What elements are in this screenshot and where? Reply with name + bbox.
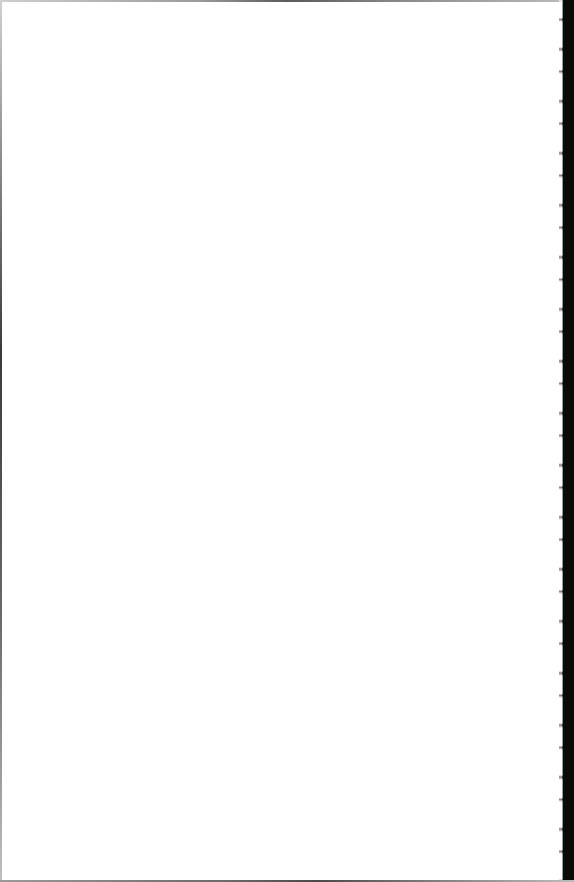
blank-page-area bbox=[2, 2, 562, 880]
scanned-page bbox=[0, 0, 574, 882]
page-binding-edge bbox=[562, 0, 574, 882]
